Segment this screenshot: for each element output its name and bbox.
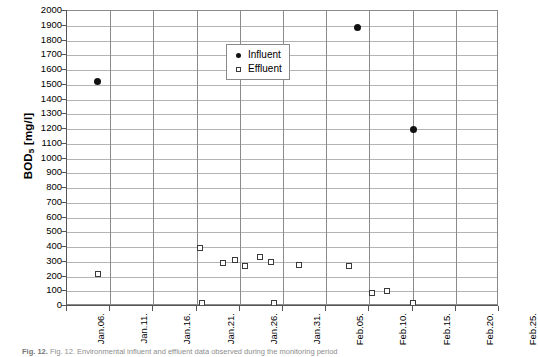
data-point-influent: [94, 78, 101, 85]
data-point-effluent: [296, 262, 302, 268]
data-point-effluent: [220, 260, 226, 266]
y-axis-tick-label: 2000: [18, 5, 62, 15]
y-axis-tick-label: 1600: [18, 64, 62, 74]
vertical-gridline: [413, 11, 414, 304]
y-axis-line: [66, 10, 67, 305]
y-axis-tick-label: 1300: [18, 108, 62, 118]
legend-item-label: Effluent: [248, 64, 282, 74]
legend-item-effluent: Effluent: [231, 62, 282, 76]
y-axis-tick-mark: [61, 99, 66, 100]
vertical-gridline: [110, 11, 111, 304]
y-axis-tick-label: 1400: [18, 94, 62, 104]
legend-marker-glyph: [236, 67, 241, 72]
y-axis-tick-label: 1200: [18, 123, 62, 133]
horizontal-gridline: [67, 188, 497, 189]
vertical-gridline: [456, 11, 457, 304]
horizontal-gridline: [67, 173, 497, 174]
y-axis-tick-label: 1700: [18, 49, 62, 59]
data-point-effluent: [242, 263, 248, 269]
y-axis-tick-mark: [61, 84, 66, 85]
horizontal-gridline: [67, 85, 497, 86]
y-axis-tick-label: 1500: [18, 79, 62, 89]
data-point-effluent: [257, 254, 263, 260]
legend: InfluentEffluent: [226, 44, 290, 80]
data-point-effluent: [268, 259, 274, 265]
y-axis-tick-labels: 2000190018001700160015001400130012001100…: [18, 10, 62, 305]
y-axis-tick-label: 1800: [18, 35, 62, 45]
y-axis-tick-mark: [61, 276, 66, 277]
y-axis-tick-label: 600: [18, 212, 62, 222]
horizontal-gridline: [67, 41, 497, 42]
y-axis-tick-mark: [61, 158, 66, 159]
vertical-gridline: [369, 11, 370, 304]
y-axis-tick-label: 1100: [18, 138, 62, 148]
y-axis-tick-mark: [61, 231, 66, 232]
horizontal-gridline: [67, 203, 497, 204]
y-axis-tick-mark: [61, 187, 66, 188]
horizontal-gridline: [67, 100, 497, 101]
y-axis-tick-mark: [61, 113, 66, 114]
data-point-influent: [354, 24, 361, 31]
y-axis-tick-mark: [61, 246, 66, 247]
vertical-gridline: [197, 11, 198, 304]
horizontal-gridline: [67, 129, 497, 130]
y-axis-tick-mark: [61, 54, 66, 55]
data-point-effluent: [232, 257, 238, 263]
y-axis-tick-mark: [61, 40, 66, 41]
vertical-gridline: [153, 11, 154, 304]
horizontal-gridline: [67, 114, 497, 115]
data-point-effluent: [369, 290, 375, 296]
horizontal-gridline: [67, 159, 497, 160]
y-axis-tick-mark: [61, 69, 66, 70]
data-point-effluent: [95, 271, 101, 277]
vertical-gridline: [326, 11, 327, 304]
figure-caption-prefix: Fig. 12.: [22, 347, 48, 356]
y-axis-tick-label: 500: [18, 226, 62, 236]
y-axis-tick-label: 100: [18, 285, 62, 295]
horizontal-gridline: [67, 247, 497, 248]
y-axis-tick-mark: [61, 261, 66, 262]
y-axis-tick-label: 800: [18, 182, 62, 192]
figure-caption-text: Fig. 12. Environmental influent and effl…: [50, 347, 338, 356]
filled-circle-icon: [231, 53, 245, 58]
horizontal-gridline: [67, 26, 497, 27]
horizontal-gridline: [67, 291, 497, 292]
y-axis-tick-mark: [61, 172, 66, 173]
y-axis-tick-mark: [61, 10, 66, 11]
figure-caption: Fig. 12. Fig. 12. Environmental influent…: [22, 347, 492, 357]
y-axis-tick-mark: [61, 143, 66, 144]
y-axis-tick-mark: [61, 290, 66, 291]
horizontal-gridline: [67, 218, 497, 219]
y-axis-tick-label: 700: [18, 197, 62, 207]
legend-marker-glyph: [236, 53, 241, 58]
y-axis-tick-mark: [61, 217, 66, 218]
y-axis-tick-label: 900: [18, 167, 62, 177]
y-axis-tick-mark: [61, 202, 66, 203]
y-axis-tick-label: 1000: [18, 153, 62, 163]
data-point-effluent: [346, 263, 352, 269]
y-axis-tick-label: 400: [18, 241, 62, 251]
legend-item-influent: Influent: [231, 48, 282, 62]
legend-item-label: Influent: [248, 50, 281, 60]
y-axis-tick-label: 300: [18, 256, 62, 266]
y-axis-tick-mark: [61, 128, 66, 129]
horizontal-gridline: [67, 277, 497, 278]
open-square-icon: [231, 67, 245, 72]
y-axis-tick-label: 1900: [18, 20, 62, 30]
horizontal-gridline: [67, 144, 497, 145]
horizontal-gridline: [67, 232, 497, 233]
horizontal-gridline: [67, 262, 497, 263]
x-axis-tick-label: Feb.25.: [528, 313, 538, 357]
y-axis-tick-label: 200: [18, 271, 62, 281]
data-point-influent: [410, 126, 417, 133]
data-point-effluent: [197, 245, 203, 251]
y-axis-tick-mark: [61, 25, 66, 26]
data-point-effluent: [384, 288, 390, 294]
